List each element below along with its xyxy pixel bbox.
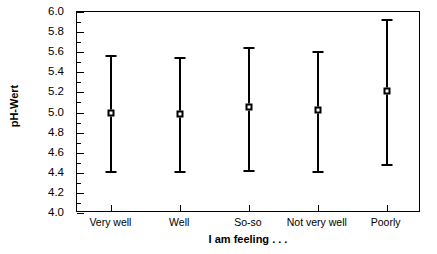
error-bar	[104, 12, 118, 213]
error-bar-lower-cap	[312, 171, 323, 173]
y-axis-tick-labels: 6.05.85.65.45.25.04.84.64.44.24.0	[26, 11, 70, 212]
y-axis-major-tick	[77, 133, 84, 134]
y-axis-title-text: pH-Wert	[8, 85, 20, 128]
x-axis-tick	[318, 205, 319, 211]
y-axis-minor-tick	[77, 163, 81, 164]
data-point-marker	[314, 107, 321, 114]
y-axis-major-tick	[77, 113, 84, 114]
y-axis-minor-tick	[77, 102, 81, 103]
data-point-marker	[108, 109, 115, 116]
y-tick-label: 5.6	[48, 45, 64, 57]
error-bar-upper-cap	[106, 55, 117, 57]
y-axis-major-tick	[77, 92, 84, 93]
y-axis-minor-tick	[77, 82, 81, 83]
x-axis-title: I am feeling . . .	[76, 233, 420, 245]
error-bar-upper-cap	[175, 57, 186, 59]
x-tick-label: Poorly	[371, 216, 401, 228]
data-point-marker	[177, 110, 184, 117]
y-tick-label: 5.8	[48, 25, 64, 37]
data-point-marker	[383, 88, 390, 95]
x-tick-label: So-so	[234, 216, 261, 228]
y-axis-minor-tick	[77, 183, 81, 184]
y-tick-label: 5.2	[48, 85, 64, 97]
y-tick-label: 5.4	[48, 65, 64, 77]
error-bar	[173, 12, 187, 213]
data-point-marker	[246, 104, 253, 111]
y-axis-minor-tick	[77, 42, 81, 43]
y-axis-major-tick	[77, 32, 84, 33]
y-axis-major-tick	[77, 72, 84, 73]
error-bar	[311, 12, 325, 213]
plot-area	[76, 11, 420, 212]
y-tick-label: 5.0	[48, 106, 64, 118]
x-tick-label: Well	[169, 216, 189, 228]
x-axis-tick	[249, 205, 250, 211]
x-tick-label: Very well	[89, 216, 131, 228]
error-bar-lower-cap	[106, 171, 117, 173]
error-bar-series	[77, 12, 419, 211]
y-tick-label: 4.2	[48, 186, 64, 198]
x-tick-label: Not very well	[287, 216, 347, 228]
y-axis-major-tick	[77, 52, 84, 53]
y-axis-minor-tick	[77, 203, 81, 204]
x-axis-tick	[180, 205, 181, 211]
y-tick-label: 6.0	[48, 5, 64, 17]
y-tick-label: 4.4	[48, 166, 64, 178]
y-axis-major-tick	[77, 153, 84, 154]
y-tick-label: 4.0	[48, 206, 64, 218]
y-tick-label: 4.6	[48, 146, 64, 158]
y-axis-major-tick	[77, 173, 84, 174]
y-axis-major-tick	[77, 193, 84, 194]
x-axis-tick-labels: Very wellWellSo-soNot very wellPoorly	[76, 216, 420, 232]
error-bar-lower-cap	[244, 170, 255, 172]
x-axis-tick	[387, 205, 388, 211]
x-axis-tick	[111, 205, 112, 211]
y-axis-major-tick	[77, 12, 84, 13]
y-axis-minor-tick	[77, 143, 81, 144]
y-axis-minor-tick	[77, 22, 81, 23]
chart-container: pH-Wert 6.05.85.65.45.25.04.84.64.44.24.…	[0, 0, 437, 254]
error-bar-upper-cap	[381, 19, 392, 21]
error-bar-lower-cap	[175, 171, 186, 173]
y-tick-label: 4.8	[48, 126, 64, 138]
error-bar-lower-cap	[381, 164, 392, 166]
y-axis-title: pH-Wert	[2, 0, 26, 212]
y-axis-major-tick	[77, 213, 84, 214]
y-axis-minor-tick	[77, 123, 81, 124]
error-bar-upper-cap	[312, 51, 323, 53]
error-bar-upper-cap	[244, 47, 255, 49]
error-bar	[380, 12, 394, 213]
y-axis-minor-tick	[77, 62, 81, 63]
error-bar	[242, 12, 256, 213]
